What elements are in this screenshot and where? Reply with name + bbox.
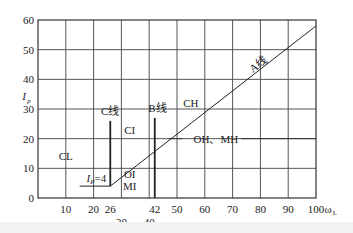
y-tick-label: 20 [23,133,35,145]
x-tick-label: 80 [255,203,267,215]
y-tick-label: 10 [23,162,35,174]
a-line-label: A线 [246,53,269,75]
x-tick-label: 26 [105,203,117,215]
region-label: CH [183,97,198,109]
plasticity-chart: 01020304050601020264250607080901003040Ip… [0,0,353,233]
region-label: CL [59,150,73,162]
y-tick-label: 60 [23,14,35,26]
region-label: OH、MH [194,133,239,145]
x-tick-label: 70 [227,203,239,215]
x-tick-label: 42 [149,203,160,215]
y-axis-label: I [21,90,27,102]
x-tick-label: 20 [88,203,100,215]
x-axis-label: ω [324,203,331,215]
y-tick-label: 50 [23,44,35,56]
y-tick-label: 40 [23,73,35,85]
y-axis-label-sub: p [26,97,31,105]
x-tick-label: 90 [283,203,295,215]
x-tick-label: 60 [199,203,211,215]
b-line-label: B线 [148,101,166,114]
bottom-band [0,222,353,233]
x-tick-label: 10 [60,203,72,215]
x-tick-label: 50 [172,203,184,215]
x-tick-label: 100 [308,203,325,215]
c-line-label: C线 [101,104,119,117]
y-tick-label: 0 [29,192,35,204]
region-label: CI [124,124,135,136]
ip4-label: IP=4 [86,172,107,186]
x-axis-label-sub: L [333,209,337,217]
region-label: MI [123,180,137,192]
chart-svg: 01020304050601020264250607080901003040Ip… [0,0,353,233]
region-label: OI [124,168,136,180]
